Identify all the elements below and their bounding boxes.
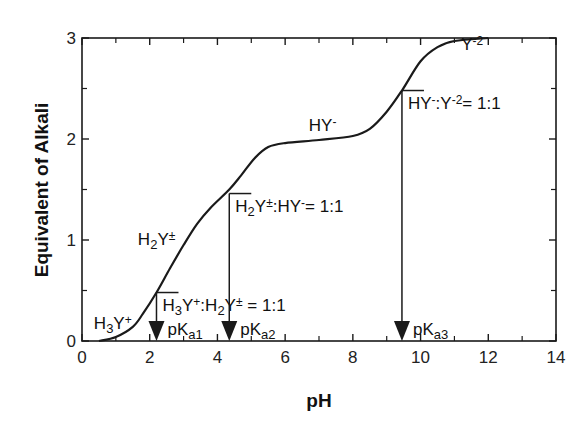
x-tick-label: 2 (145, 348, 154, 367)
species-label: Y-2 (461, 34, 483, 54)
species-label: HY- (309, 115, 337, 135)
arrow-down-icon (221, 321, 237, 341)
y-tick-label: 3 (67, 29, 76, 48)
titration-curve-path (99, 38, 488, 341)
y-axis-title: Equivalent of Alkali (31, 103, 52, 278)
species-label: H2Y± (138, 229, 176, 252)
pka-label: pKa1 (167, 320, 202, 342)
x-tick-label: 12 (479, 348, 498, 367)
arrow-down-icon (394, 321, 410, 341)
arrow-down-icon (148, 321, 164, 341)
ratio-label: H3Y+:H2Y± = 1:1 (162, 295, 285, 318)
ratio-label: HY-:Y-2= 1:1 (408, 93, 501, 113)
x-tick-label: 10 (411, 348, 430, 367)
ratio-label: H2Y±:HY-= 1:1 (235, 196, 343, 219)
x-axis-title: pH (306, 390, 331, 411)
x-tick-label: 6 (280, 348, 289, 367)
x-tick-label: 4 (213, 348, 222, 367)
x-tick-label: 8 (348, 348, 357, 367)
marker-pka3: HY-:Y-2= 1:1pKa3 (394, 91, 501, 342)
y-tick-label: 2 (67, 130, 76, 149)
plot-border (82, 38, 556, 341)
pka-label: pKa3 (413, 320, 448, 342)
pka-label: pKa2 (240, 320, 275, 342)
titration-curve (99, 38, 488, 341)
y-tick-label: 1 (67, 231, 76, 250)
species-labels: H3Y+H2Y±HY-Y-2 (94, 34, 484, 335)
x-tick-label: 0 (77, 348, 86, 367)
y-tick-label: 0 (67, 332, 76, 351)
titration-chart: 024681012140123 H3Y+:H2Y± = 1:1pKa1H2Y±:… (0, 0, 588, 426)
x-tick-label: 14 (547, 348, 566, 367)
plot-frame (82, 38, 556, 341)
marker-pka2: H2Y±:HY-= 1:1pKa2 (221, 194, 343, 342)
